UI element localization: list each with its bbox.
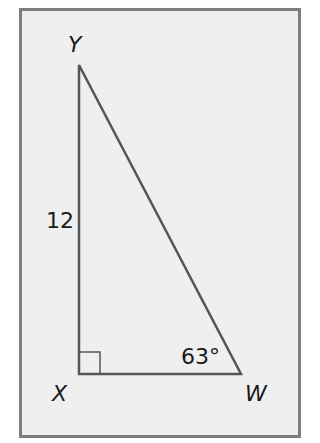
vertex-label-y: Y [68, 34, 81, 56]
side-label-xy: 12 [46, 210, 74, 232]
triangle-xyw [79, 65, 241, 374]
vertex-label-x: X [52, 383, 67, 405]
angle-label-w: 63° [181, 346, 220, 368]
right-angle-marker [79, 352, 100, 374]
vertex-label-w: W [245, 383, 267, 405]
